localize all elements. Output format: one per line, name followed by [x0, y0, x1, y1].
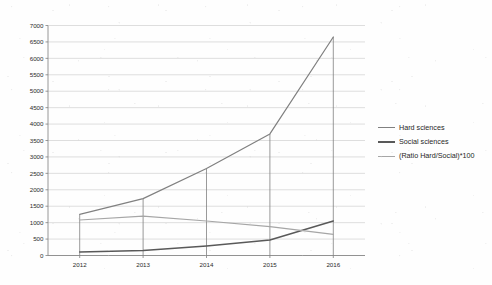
x-axis-tick-labels: 20122013201420152016: [73, 261, 341, 268]
legend-item-hard-sciences[interactable]: Hard sciences: [378, 124, 475, 131]
y-axis-tick-label: 6500: [30, 38, 44, 45]
y-axis-tick-label: 5000: [30, 87, 44, 94]
y-axis-tick-label: 7000: [30, 22, 44, 29]
x-axis-tick-label: 2013: [136, 261, 150, 268]
x-axis-tick-label: 2015: [263, 261, 277, 268]
x-axis-tick-label: 2014: [200, 261, 214, 268]
legend-item-ratio[interactable]: (Ratio Hard/Social)*100: [378, 152, 475, 159]
y-axis-tick-label: 0: [40, 252, 44, 259]
x-axis-tick-label: 2016: [326, 261, 340, 268]
chart-container: 0500100015002000250030003500400045005000…: [0, 0, 492, 285]
y-axis-tick-label: 1000: [30, 219, 44, 226]
y-axis-tick-label: 2000: [30, 186, 44, 193]
y-axis-tick-label: 4000: [30, 120, 44, 127]
legend-swatch-ratio: [378, 156, 395, 157]
legend-item-social-sciences[interactable]: Social sciences: [378, 138, 475, 145]
y-axis-tick-label: 3000: [30, 153, 44, 160]
y-axis-tick-label: 1500: [30, 202, 44, 209]
x-axis-tick-label: 2012: [73, 261, 87, 268]
y-axis-tick-labels: 0500100015002000250030003500400045005000…: [30, 22, 44, 259]
y-axis-tick-label: 500: [33, 235, 44, 242]
chart-legend: Hard sciences Social sciences (Ratio Har…: [378, 124, 475, 160]
legend-label-hard-sciences: Hard sciences: [399, 124, 445, 131]
y-axis-tick-label: 6000: [30, 55, 44, 62]
y-axis-tick-label: 4500: [30, 104, 44, 111]
y-axis-tick-label: 2500: [30, 170, 44, 177]
legend-swatch-social-sciences: [378, 141, 395, 143]
axis-lines: [46, 26, 366, 259]
legend-label-ratio: (Ratio Hard/Social)*100: [399, 152, 475, 159]
y-axis-tick-label: 5500: [30, 71, 44, 78]
y-axis-tick-label: 3500: [30, 137, 44, 144]
legend-label-social-sciences: Social sciences: [399, 138, 449, 145]
legend-swatch-hard-sciences: [378, 127, 395, 128]
